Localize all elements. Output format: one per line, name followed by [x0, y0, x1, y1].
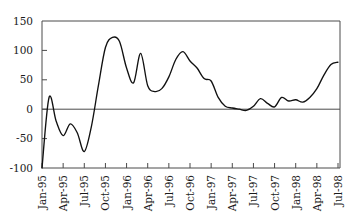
x-axis-tick-label: Jul-98	[332, 175, 344, 207]
x-axis-tick-label: Jan-97	[205, 175, 217, 210]
y-axis-tick-label: -50	[16, 132, 33, 144]
y-axis-tick-label: 100	[13, 44, 33, 56]
y-axis-tick-label: 150	[13, 15, 33, 27]
x-axis-tick-label: Apr-97	[226, 175, 238, 212]
line-chart: 150100500-50-100 Jan-95Apr-95Jul-95Oct-9…	[0, 0, 358, 222]
x-axis-tick-label: Jul-95	[78, 175, 90, 207]
data-series-line	[42, 37, 338, 168]
x-axis-tick-marks	[42, 163, 338, 168]
x-axis-tick-label: Jan-95	[36, 175, 48, 210]
x-axis-tick-label: Jul-97	[247, 175, 259, 207]
x-axis-tick-label: Jan-96	[121, 175, 133, 210]
chart-container: 150100500-50-100 Jan-95Apr-95Jul-95Oct-9…	[0, 0, 358, 222]
x-axis-tick-label: Jul-96	[163, 175, 175, 208]
x-axis-tick-label: Apr-98	[311, 175, 323, 212]
x-axis-tick-labels: Jan-95Apr-95Jul-95Oct-95Jan-96Apr-96Jul-…	[36, 175, 344, 213]
y-axis-tick-label: 50	[20, 73, 33, 85]
x-axis-tick-label: Jan-98	[290, 175, 302, 210]
y-axis-tick-label: -100	[9, 162, 33, 174]
y-axis-tick-labels: 150100500-50-100	[9, 15, 33, 174]
x-axis-tick-label: Oct-95	[99, 175, 111, 211]
x-axis-tick-label: Oct-96	[184, 175, 196, 211]
y-axis-tick-label: 0	[26, 103, 33, 115]
x-axis-tick-label: Apr-95	[57, 175, 69, 212]
x-axis-tick-label: Oct-97	[269, 175, 281, 211]
x-axis-tick-label: Apr-96	[142, 175, 154, 213]
